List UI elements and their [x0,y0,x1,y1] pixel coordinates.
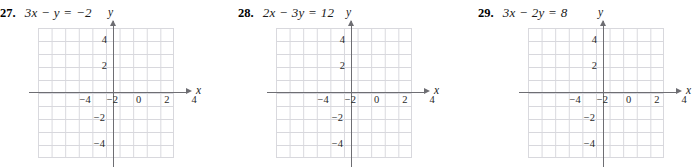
problem-equation-29: 3x − 2y = 8 [503,5,568,20]
x-tick-label: −2 [593,94,611,105]
y-axis-arrow-icon [348,20,354,26]
y-tick-label: 4 [327,34,345,45]
problem-equation-28: 2x − 3y = 12 [263,5,335,20]
x-tick-label-origin: 0 [620,94,638,105]
x-axis-line [267,92,425,93]
coordinate-grid-28: x y −4 −2 0 2 4 4 2 −2 −4 [276,28,412,158]
x-tick-label: 4 [675,94,693,105]
problem-header-28: 28.2x − 3y = 12 [238,2,334,22]
x-tick-label: −2 [103,94,121,105]
problem-header-27: 27.3x − y = −2 [0,2,92,22]
y-tick-label: −2 [87,112,105,123]
y-axis-arrow-icon [110,20,116,26]
y-tick-label: 2 [579,60,597,71]
y-tick-label: 4 [579,34,597,45]
x-tick-label-origin: 0 [368,94,386,105]
coordinate-grid-27: x y −4 −2 0 2 4 4 2 −2 −4 [38,28,174,158]
y-axis-label: y [108,6,113,18]
y-tick-label: −4 [87,138,105,149]
x-tick-label: 2 [158,94,176,105]
grid-lines [528,28,664,158]
x-axis-line [29,92,187,93]
problem-equation-27: 3x − y = −2 [25,5,92,20]
y-tick-label: 2 [89,60,107,71]
x-axis-line [519,92,677,93]
problem-header-29: 29.3x − 2y = 8 [478,2,568,22]
y-tick-label: 4 [89,34,107,45]
x-tick-label-origin: 0 [130,94,148,105]
problem-number-28: 28. [238,6,254,20]
x-tick-label: −2 [341,94,359,105]
y-axis-arrow-icon [600,20,606,26]
y-tick-label: 2 [327,60,345,71]
y-tick-label: −4 [325,138,343,149]
x-tick-label: −4 [566,94,584,105]
grid-lines [38,28,174,158]
x-tick-label: 2 [396,94,414,105]
x-tick-label: 4 [185,94,203,105]
x-tick-label: −4 [76,94,94,105]
grid-lines [276,28,412,158]
y-tick-label: −2 [577,112,595,123]
y-axis-label: y [598,6,603,18]
x-tick-label: 2 [648,94,666,105]
exercise-29: 29.3x − 2y = 8 x y −4 −2 0 2 4 4 2 −2 −4 [478,0,696,161]
x-tick-label: 4 [423,94,441,105]
x-tick-label: −4 [314,94,332,105]
problem-number-27: 27. [0,6,16,20]
exercise-27: 27.3x − y = −2 x y −4 −2 0 2 4 4 2 −2 −4 [0,0,220,161]
problem-number-29: 29. [478,6,494,20]
coordinate-grid-29: x y −4 −2 0 2 4 4 2 −2 −4 [528,28,664,158]
exercise-28: 28.2x − 3y = 12 x y −4 −2 0 2 4 4 2 −2 −… [238,0,458,161]
y-tick-label: −2 [325,112,343,123]
y-axis-label: y [346,6,351,18]
y-tick-label: −4 [577,138,595,149]
